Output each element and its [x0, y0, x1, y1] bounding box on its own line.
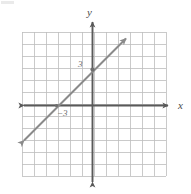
- y-intercept-point: [90, 67, 94, 71]
- x-intercept-value-label: −3: [57, 109, 68, 118]
- graph-canvas: [0, 0, 191, 194]
- x-axis-label: x: [178, 100, 183, 111]
- x-intercept-point: [55, 104, 58, 107]
- coordinate-plane-figure: y x 3 −3: [0, 0, 191, 194]
- y-intercept-value-label: 3: [78, 60, 83, 69]
- grid-lines: [22, 32, 166, 176]
- plotted-line: [24, 39, 126, 141]
- y-axis-label: y: [87, 7, 92, 18]
